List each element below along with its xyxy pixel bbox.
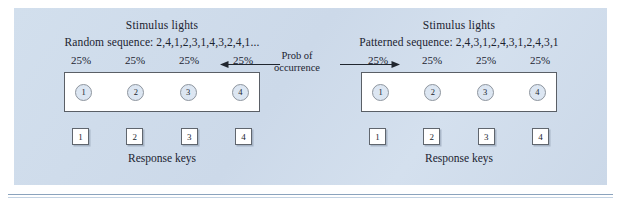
stimulus-light: 2 [424, 84, 441, 101]
condition-patterned: Stimulus lights Patterned sequence: 2,4,… [311, 8, 607, 185]
stimulus-light: 3 [477, 84, 494, 101]
stimulus-light: 4 [232, 84, 249, 101]
footer-rule-top [8, 194, 613, 195]
response-key[interactable]: 1 [72, 128, 89, 145]
stimulus-light: 2 [127, 84, 144, 101]
footer-rule-bottom [8, 197, 613, 198]
response-key[interactable]: 3 [478, 128, 495, 145]
probability-label: 25% [469, 54, 503, 66]
stimulus-lights-box-patterned: 1 2 3 4 [361, 72, 557, 112]
stimulus-light: 4 [529, 84, 546, 101]
stimulus-light: 1 [75, 84, 92, 101]
prob-of-occurrence-line2: occurrence [258, 62, 336, 74]
response-keys-row-patterned: 1 2 3 4 [361, 128, 557, 145]
response-key[interactable]: 4 [532, 128, 549, 145]
probability-label: 25% [523, 54, 557, 66]
sequence-label-patterned: Patterned sequence: 2,4,3,1,2,4,3,1,2,4,… [311, 36, 607, 48]
condition-random: Stimulus lights Random sequence: 2,4,1,2… [14, 8, 310, 185]
response-key[interactable]: 4 [235, 128, 252, 145]
stimulus-light: 3 [180, 84, 197, 101]
prob-of-occurrence-label: Prob of occurrence [258, 50, 336, 74]
response-keys-caption-patterned: Response keys [361, 152, 557, 164]
response-keys-row-random: 1 2 3 4 [64, 128, 260, 145]
probability-label: 25% [415, 54, 449, 66]
response-key[interactable]: 1 [369, 128, 386, 145]
sequence-label-random: Random sequence: 2,4,1,2,3,1,4,3,2,4,1..… [14, 36, 310, 48]
response-keys-caption-random: Response keys [64, 152, 260, 164]
prob-of-occurrence-line1: Prob of [258, 50, 336, 62]
response-key[interactable]: 3 [181, 128, 198, 145]
response-key[interactable]: 2 [423, 128, 440, 145]
probability-label: 25% [64, 54, 98, 66]
stimulus-lights-heading-patterned: Stimulus lights [311, 19, 607, 31]
figure-root: Stimulus lights Random sequence: 2,4,1,2… [0, 0, 621, 214]
response-key[interactable]: 2 [126, 128, 143, 145]
stimulus-lights-box-random: 1 2 3 4 [64, 72, 260, 112]
stimulus-light: 1 [372, 84, 389, 101]
probability-label: 25% [118, 54, 152, 66]
stimulus-lights-heading-random: Stimulus lights [14, 19, 310, 31]
